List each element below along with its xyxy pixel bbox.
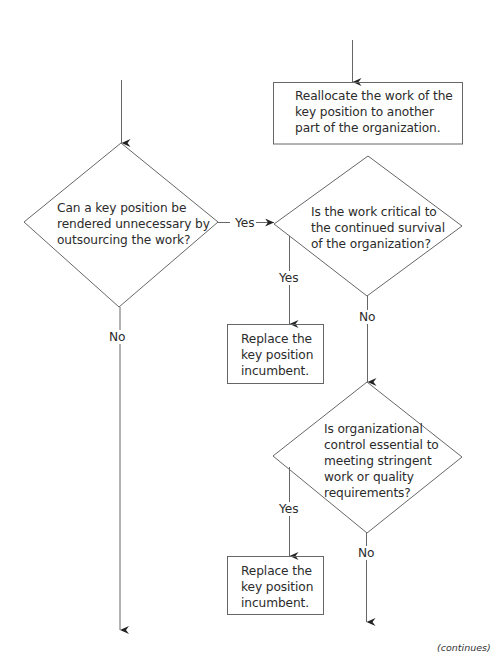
text-line: part of the organization. xyxy=(295,120,453,136)
text-line: outsourcing the work? xyxy=(57,232,210,248)
text-line: incumbent. xyxy=(241,595,313,611)
text-line: incumbent. xyxy=(241,363,313,379)
text-line: control essential to xyxy=(324,437,439,453)
text-line: key position xyxy=(241,347,313,363)
decision-outsource-text: Can a key position be rendered unnecessa… xyxy=(57,200,210,248)
decision-critical-text: Is the work critical to the continued su… xyxy=(311,204,445,252)
text-line: Is organizational xyxy=(324,421,439,437)
text-line: work or quality xyxy=(324,469,439,485)
continues-note: (continues) xyxy=(437,642,491,653)
replace-box-2-text: Replace the key position incumbent. xyxy=(241,563,313,611)
control-no-label: No xyxy=(358,546,375,560)
critical-no-label: No xyxy=(359,310,376,324)
text-line: Can a key position be xyxy=(57,200,210,216)
text-line: Replace the xyxy=(241,331,313,347)
text-line: meeting stringent xyxy=(324,453,439,469)
text-line: the continued survival xyxy=(311,220,445,236)
text-line: Reallocate the work of the xyxy=(295,88,453,104)
text-line: key position to another xyxy=(295,104,453,120)
decision-control-text: Is organizational control essential to m… xyxy=(324,421,439,501)
critical-yes-label: Yes xyxy=(279,271,299,285)
text-line: key position xyxy=(241,579,313,595)
outsource-yes-label: Yes xyxy=(235,216,255,230)
text-line: of the organization? xyxy=(311,236,445,252)
outsource-no-label: No xyxy=(109,330,126,344)
reallocate-box-text: Reallocate the work of the key position … xyxy=(295,88,453,136)
text-line: requirements? xyxy=(324,485,439,501)
control-yes-label: Yes xyxy=(279,502,299,516)
replace-box-1-text: Replace the key position incumbent. xyxy=(241,331,313,379)
text-line: rendered unnecessary by xyxy=(57,216,210,232)
text-line: Replace the xyxy=(241,563,313,579)
text-line: Is the work critical to xyxy=(311,204,445,220)
